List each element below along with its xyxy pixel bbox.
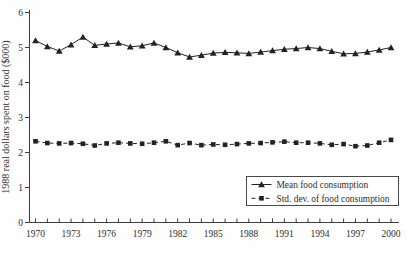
- x-tick-label: 1994: [310, 229, 329, 239]
- y-tick-label: 5: [18, 43, 23, 53]
- chart-figure: 1988 real dollars spent on food ($000) 0…: [0, 0, 407, 255]
- series-1-marker: [223, 143, 228, 148]
- y-tick-label: 3: [18, 113, 23, 123]
- y-axis-title: 1988 real dollars spent on food ($000): [0, 40, 12, 193]
- series-1-marker: [175, 143, 180, 148]
- x-tick-label: 1997: [346, 229, 365, 239]
- y-tick-label: 4: [18, 78, 23, 88]
- series-1-marker: [282, 139, 287, 144]
- x-tick-label: 1991: [275, 229, 294, 239]
- series-1-marker: [81, 141, 86, 146]
- series-0-marker: [115, 40, 122, 46]
- y-tick-label: 0: [18, 218, 23, 228]
- x-tick-label: 1985: [204, 229, 223, 239]
- series-1-marker: [116, 140, 121, 145]
- series-1-marker: [329, 143, 334, 148]
- series-1-marker: [377, 140, 382, 145]
- series-1-marker: [199, 143, 204, 148]
- series-1-marker: [57, 141, 62, 146]
- series-1-marker: [140, 141, 145, 146]
- chart-svg: 1988 real dollars spent on food ($000) 0…: [0, 0, 407, 255]
- series-1-marker: [33, 139, 38, 144]
- series-0-marker: [162, 44, 169, 50]
- series-1-marker: [164, 139, 169, 144]
- series-0-marker: [68, 41, 75, 47]
- series-1-marker: [365, 143, 370, 148]
- series-0-marker: [174, 49, 181, 55]
- series-1-marker: [235, 142, 240, 147]
- series-1-marker: [389, 138, 394, 143]
- x-tick-label: 1982: [168, 229, 187, 239]
- series-0-marker: [305, 44, 312, 50]
- series-1-marker: [306, 140, 311, 145]
- y-tick-label: 1: [18, 183, 23, 193]
- series-1-marker: [341, 142, 346, 147]
- series-1-marker: [152, 140, 157, 145]
- series-1-marker: [92, 143, 97, 148]
- legend-label: Mean food consumption: [277, 180, 369, 190]
- series-1-marker: [45, 141, 50, 146]
- series-0-marker: [388, 44, 395, 50]
- x-tick-label: 2000: [382, 229, 401, 239]
- series-1-marker: [353, 144, 358, 149]
- y-tick-label: 2: [18, 148, 23, 158]
- legend-square-icon: [259, 196, 264, 201]
- x-tick-label: 1976: [97, 229, 116, 239]
- series-1-marker: [270, 140, 275, 145]
- x-tick-label: 1970: [26, 229, 45, 239]
- series-0-marker: [151, 40, 158, 46]
- series-1-marker: [104, 141, 109, 146]
- x-tick-label: 1988: [239, 229, 258, 239]
- series-1-marker: [69, 141, 74, 146]
- series-1-marker: [294, 140, 299, 145]
- series-0-marker: [32, 37, 39, 43]
- series-1-marker: [258, 141, 263, 146]
- series-1-marker: [187, 141, 192, 146]
- series-1-marker: [211, 142, 216, 147]
- x-tick-label: 1979: [133, 229, 152, 239]
- series-1-marker: [318, 141, 323, 146]
- plot-area: 0123456197019731976197919821985198819911…: [18, 8, 401, 239]
- x-tick-label: 1973: [62, 229, 81, 239]
- y-tick-label: 6: [18, 8, 23, 18]
- legend-label: Std. dev. of food consumption: [277, 194, 390, 204]
- series-1-marker: [247, 141, 252, 146]
- series-0-marker: [56, 48, 63, 54]
- series-0-marker: [44, 43, 51, 49]
- series-1-marker: [128, 141, 133, 146]
- series-0-marker: [80, 34, 87, 40]
